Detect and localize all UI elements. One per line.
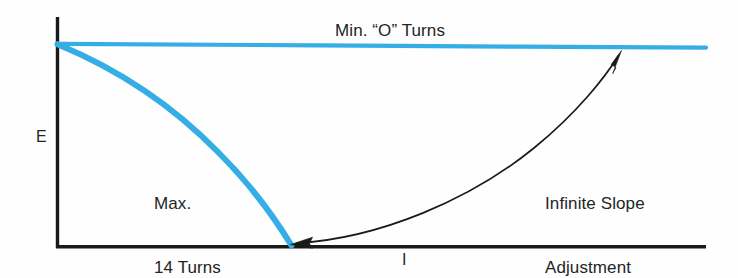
annotation-arrowhead-upper (611, 51, 621, 74)
annotation-label-line2: Adjustment (545, 257, 645, 278)
series-line-min-o-turns (58, 44, 707, 48)
annotation-label-line1: Infinite Slope (545, 193, 645, 214)
chart-figure: Min. “O” Turns Max. 14 Turns Infinite Sl… (0, 0, 738, 278)
y-axis-label: E (36, 127, 47, 147)
series-label-max-14-turns-line1: Max. (154, 193, 221, 214)
series-label-max-14-turns: Max. 14 Turns (154, 150, 221, 278)
series-label-min-o-turns: Min. “O” Turns (335, 20, 445, 41)
series-label-max-14-turns-line2: 14 Turns (154, 257, 221, 278)
x-axis-label: I (402, 250, 407, 270)
annotation-label-infinite-slope-adjustment: Infinite Slope Adjustment (545, 150, 645, 278)
